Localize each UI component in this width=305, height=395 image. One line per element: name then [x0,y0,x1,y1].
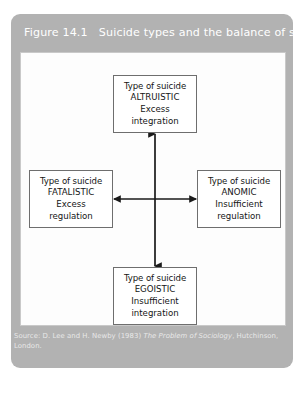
source-line-2: London. [14,342,290,352]
altruistic-line-desc1: Excess [140,104,169,116]
altruistic-line-desc2: integration [131,116,178,128]
anomic-line-name: ANOMIC [221,187,256,199]
fatalistic-line-type: Type of suicide [40,176,102,188]
node-box-fatalistic: Type of suicide FATALISTIC Excess regula… [29,170,113,228]
node-box-egoistic: Type of suicide EGOISTIC Insufficient in… [113,267,197,325]
fatalistic-line-desc1: Excess [56,199,85,211]
altruistic-line-name: ALTRUISTIC [131,92,180,104]
source-caption: Source: D. Lee and H. Newby (1983) The P… [14,332,290,351]
source-title: The Problem of Sociology [143,332,232,340]
fatalistic-line-name: FATALISTIC [48,187,94,199]
egoistic-line-name: EGOISTIC [135,284,176,296]
node-box-anomic: Type of suicide ANOMIC Insufficient regu… [197,170,281,228]
egoistic-line-type: Type of suicide [124,273,186,285]
anomic-line-desc2: regulation [217,211,261,223]
source-prefix: Source: D. Lee and H. Newby (1983) [14,332,143,340]
anomic-line-desc1: Insufficient [215,199,262,211]
diagram-panel: Type of suicide ALTRUISTIC Excess integr… [20,52,286,326]
egoistic-line-desc1: Insufficient [131,296,178,308]
figure-title: Figure 14.1 Suicide types and the balanc… [24,26,286,40]
figure-panel: Figure 14.1 Suicide types and the balanc… [11,14,293,368]
node-box-altruistic: Type of suicide ALTRUISTIC Excess integr… [113,75,197,133]
fatalistic-line-desc2: regulation [49,211,93,223]
altruistic-line-type: Type of suicide [124,81,186,93]
anomic-line-type: Type of suicide [208,176,270,188]
egoistic-line-desc2: integration [131,308,178,320]
source-suffix: , Hutchinson, [232,332,278,340]
